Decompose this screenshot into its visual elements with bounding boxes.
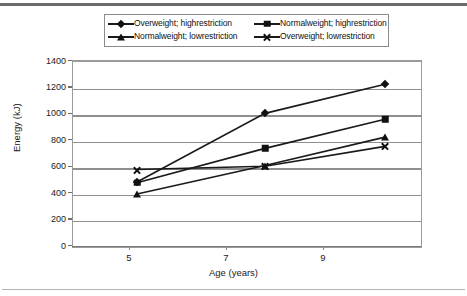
figure-container: Overweight; highrestrictionNormalweight;… [0, 0, 467, 296]
diamond-marker-icon [261, 109, 269, 117]
square-marker-icon [382, 116, 389, 123]
diamond-marker-icon [381, 80, 389, 88]
ex-marker-icon [133, 165, 142, 174]
ex-marker-icon [261, 162, 270, 171]
triangle-marker-icon [133, 190, 141, 197]
square-marker-icon [262, 145, 269, 152]
square-marker-icon [134, 179, 141, 186]
ex-marker-icon [381, 142, 390, 151]
series-markers [0, 0, 467, 296]
triangle-marker-icon [381, 134, 389, 141]
